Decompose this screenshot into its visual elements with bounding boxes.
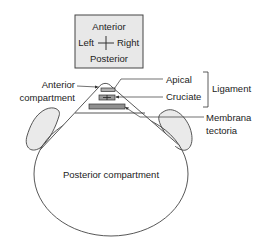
apical-ligament: [101, 88, 115, 92]
orientation-left: Left: [78, 37, 94, 48]
label-ligament: Ligament: [212, 83, 251, 94]
orientation-right: Right: [117, 37, 140, 48]
orientation-box: Anterior Left Right Posterior: [75, 15, 143, 68]
membrana-tectoria: [89, 104, 125, 109]
label-cruciate: Cruciate: [166, 91, 201, 102]
label-apical: Apical: [166, 74, 192, 85]
label-compartment: compartment: [20, 92, 76, 103]
orientation-anterior: Anterior: [92, 21, 125, 32]
label-membrana: Membrana: [206, 112, 252, 123]
label-tectoria: tectoria: [206, 125, 238, 136]
orientation-posterior: Posterior: [90, 53, 128, 64]
ligament-bracket: [203, 72, 208, 107]
label-anterior: Anterior: [42, 79, 75, 90]
label-posterior-compartment: Posterior compartment: [63, 169, 159, 180]
cruciate-ligament: [99, 95, 115, 100]
diagram-canvas: Anterior Left Right Posterior: [0, 0, 270, 249]
